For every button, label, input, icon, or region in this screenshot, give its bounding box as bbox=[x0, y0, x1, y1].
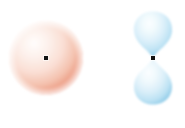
p-orbital-nucleus-dot bbox=[151, 56, 155, 60]
orbital-figure: Atomic orbital shapes bbox=[0, 0, 185, 128]
s-orbital-nucleus-dot bbox=[44, 56, 48, 60]
orbital-canvas bbox=[0, 0, 185, 128]
